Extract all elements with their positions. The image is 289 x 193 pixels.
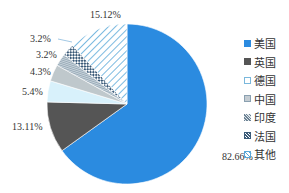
slice-data-label: 15.12% bbox=[90, 9, 121, 20]
legend-swatch bbox=[244, 77, 251, 84]
legend-item: 其他 bbox=[244, 145, 276, 164]
legend-item: 中国 bbox=[244, 90, 276, 109]
slice-data-label: 13.11% bbox=[12, 121, 42, 132]
leader-line bbox=[58, 39, 72, 42]
legend-swatch bbox=[244, 95, 251, 102]
slice-data-label: 4.3% bbox=[30, 66, 51, 77]
legend-label: 其他 bbox=[254, 146, 276, 162]
slice-data-label: 3.2% bbox=[30, 33, 51, 44]
legend-label: 法国 bbox=[254, 128, 276, 144]
legend-item: 德国 bbox=[244, 71, 276, 90]
legend-label: 中国 bbox=[254, 91, 276, 107]
legend-item: 法国 bbox=[244, 127, 276, 146]
legend-swatch bbox=[244, 58, 251, 65]
slice-data-label: 5.4% bbox=[22, 86, 43, 97]
legend-label: 德国 bbox=[254, 72, 276, 88]
legend-item: 英国 bbox=[244, 53, 276, 72]
legend-item: 印度 bbox=[244, 108, 276, 127]
legend-item: 美国 bbox=[244, 34, 276, 53]
legend-label: 美国 bbox=[254, 35, 276, 51]
legend-swatch bbox=[244, 114, 251, 121]
legend-swatch bbox=[244, 132, 251, 139]
legend-swatch bbox=[244, 40, 251, 47]
legend-label: 英国 bbox=[254, 54, 276, 70]
legend: 美国英国德国中国印度法国其他 bbox=[244, 34, 276, 164]
legend-label: 印度 bbox=[254, 109, 276, 125]
slice-data-label: 3.2% bbox=[36, 49, 57, 60]
legend-swatch bbox=[244, 151, 251, 158]
